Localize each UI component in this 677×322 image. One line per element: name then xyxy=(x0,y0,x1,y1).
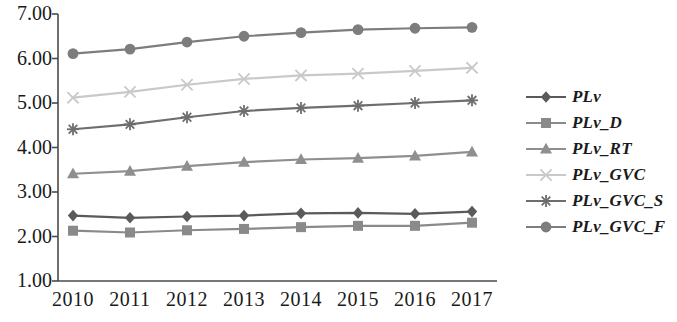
x-axis-tick-label: 2011 xyxy=(102,288,158,311)
legend-item-PLv[interactable]: PLv xyxy=(524,84,676,110)
series-PLv_GVC_F xyxy=(68,22,478,59)
legend-item-PLv_GVC[interactable]: PLv_GVC xyxy=(524,162,676,188)
diamond-marker-icon xyxy=(524,86,568,108)
chart-legend: PLvPLv_DPLv_RTPLv_GVCPLv_GVC_SPLv_GVC_F xyxy=(524,84,676,244)
x-axis-tick-label: 2016 xyxy=(387,288,443,311)
y-axis-tick-label: 2.00 xyxy=(0,225,52,248)
legend-item-label: PLv xyxy=(568,87,601,107)
x-axis-tick-label: 2012 xyxy=(159,288,215,311)
y-axis-tick-label: 6.00 xyxy=(0,47,52,70)
y-axis-tick-label: 3.00 xyxy=(0,180,52,203)
legend-item-label: PLv_GVC xyxy=(568,165,645,185)
x-marker-icon xyxy=(524,164,568,186)
legend-item-PLv_RT[interactable]: PLv_RT xyxy=(524,136,676,162)
x-axis-tick-label: 2014 xyxy=(273,288,329,311)
legend-item-PLv_GVC_S[interactable]: PLv_GVC_S xyxy=(524,188,676,214)
series-PLv_RT xyxy=(67,146,478,179)
legend-item-label: PLv_GVC_F xyxy=(568,217,665,237)
legend-item-PLv_GVC_F[interactable]: PLv_GVC_F xyxy=(524,214,676,240)
x-axis-tick-label: 2017 xyxy=(444,288,500,311)
series-PLv_GVC_S xyxy=(67,94,478,135)
x-axis-tick-label: 2013 xyxy=(216,288,272,311)
asterisk-marker-icon xyxy=(524,190,568,212)
x-axis-tick-label: 2015 xyxy=(330,288,386,311)
legend-item-label: PLv_D xyxy=(568,113,622,133)
series-line xyxy=(73,68,472,98)
square-marker-icon xyxy=(524,112,568,134)
y-axis-tick-label: 7.00 xyxy=(0,2,52,25)
y-axis-tick-label: 5.00 xyxy=(0,91,52,114)
series-PLv_GVC xyxy=(67,62,477,103)
line-chart: 7.006.005.004.003.002.001.00 20102011201… xyxy=(0,0,677,322)
y-axis-tick-label: 4.00 xyxy=(0,136,52,159)
circle-marker-icon xyxy=(524,216,568,238)
legend-item-label: PLv_GVC_S xyxy=(568,191,664,211)
legend-item-PLv_D[interactable]: PLv_D xyxy=(524,110,676,136)
x-axis-tick-label: 2010 xyxy=(45,288,101,311)
legend-item-label: PLv_RT xyxy=(568,139,632,159)
triangle-marker-icon xyxy=(524,138,568,160)
